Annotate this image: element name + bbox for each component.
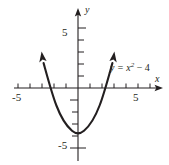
x-axis-ticks xyxy=(18,84,150,89)
x-axis-label: x xyxy=(155,74,159,84)
x-tick-label-negative-5: -5 xyxy=(12,92,21,103)
y-tick-label-positive-5: 5 xyxy=(62,27,68,38)
graph-figure: -5 5 5 -5 x y y = x2 − 4 xyxy=(0,0,169,165)
curve-equation-label: y = x2 − 4 xyxy=(110,63,150,73)
curve-arrowhead-left-icon xyxy=(39,52,46,63)
y-axis-label: y xyxy=(85,5,89,15)
coordinate-plane xyxy=(0,0,169,165)
y-tick-label-negative-5: -5 xyxy=(58,140,67,151)
curve-equation-base: y = x xyxy=(110,62,131,73)
curve-equation-operator: − xyxy=(134,62,145,73)
x-tick-label-positive-5: 5 xyxy=(133,92,139,103)
curve-arrowhead-right-icon xyxy=(109,52,116,63)
curve-equation-constant: 4 xyxy=(145,62,150,73)
